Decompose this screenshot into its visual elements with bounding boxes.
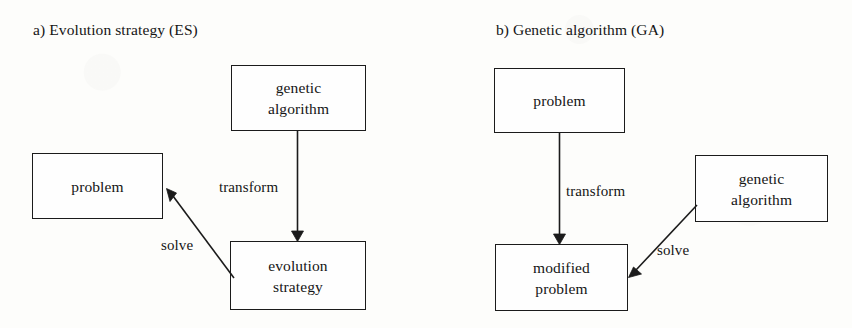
figure-canvas: a) Evolution strategy (ES) genetic algor… [0, 0, 852, 328]
connector-layer [0, 0, 852, 328]
arrow-solve-ga [629, 205, 698, 278]
arrow-transform-es [292, 131, 304, 242]
arrow-transform-ga [554, 133, 566, 245]
arrow-solve-es [167, 189, 235, 279]
